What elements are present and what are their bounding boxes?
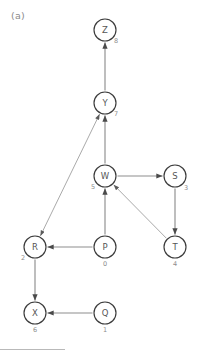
- graph-node-x[interactable]: X6: [24, 302, 46, 334]
- node-index-s: 3: [184, 184, 188, 192]
- edge-y-r: [40, 114, 99, 236]
- node-index-r: 2: [21, 254, 25, 262]
- node-label-q: Q: [102, 308, 109, 318]
- graph-node-t[interactable]: T4: [164, 236, 186, 268]
- node-index-x: 6: [33, 326, 37, 334]
- graph-node-y[interactable]: Y7: [94, 92, 118, 118]
- graph-node-r[interactable]: R2: [21, 236, 46, 262]
- node-index-y: 7: [114, 110, 118, 118]
- node-index-z: 8: [114, 37, 118, 45]
- graph-node-w[interactable]: W5: [91, 165, 116, 191]
- node-label-z: Z: [102, 25, 108, 35]
- node-index-w: 5: [91, 183, 95, 191]
- node-label-r: R: [32, 242, 38, 252]
- edge-t-w: [114, 185, 166, 238]
- figure-panel: (a) Z8Y7W5S3T4R2P0X6Q1: [0, 0, 205, 357]
- footer-rule: [0, 349, 65, 350]
- graph-node-q[interactable]: Q1: [94, 302, 116, 334]
- node-label-x: X: [32, 308, 38, 318]
- graph-node-s[interactable]: S3: [164, 165, 188, 192]
- node-label-y: Y: [101, 98, 108, 108]
- graph-node-p[interactable]: P0: [94, 236, 116, 268]
- node-index-p: 0: [103, 260, 107, 268]
- graph-node-z[interactable]: Z8: [94, 19, 118, 45]
- node-index-t: 4: [173, 260, 177, 268]
- node-label-s: S: [172, 171, 177, 181]
- node-label-t: T: [171, 242, 178, 252]
- node-label-p: P: [102, 242, 107, 252]
- node-index-q: 1: [103, 326, 107, 334]
- directed-graph-canvas: Z8Y7W5S3T4R2P0X6Q1: [0, 0, 205, 357]
- node-label-w: W: [101, 171, 110, 181]
